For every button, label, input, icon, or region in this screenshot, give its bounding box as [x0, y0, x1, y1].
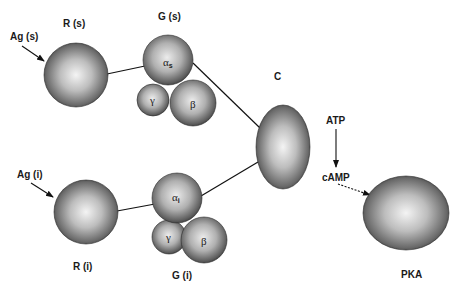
label-r-s: R (s) — [63, 18, 85, 29]
label-g-i: G (i) — [172, 270, 192, 281]
label-c: C — [274, 71, 281, 82]
edge-rs-gs — [107, 66, 145, 74]
gs-gamma-label: γ — [149, 94, 155, 106]
r-i-sphere — [54, 180, 118, 244]
label-r-i: R (i) — [73, 261, 92, 272]
label-ag-s: Ag (s) — [10, 31, 38, 42]
gs-beta-label: β — [190, 98, 196, 110]
gi-gamma-label: γ — [165, 231, 171, 243]
gi-beta-label: β — [201, 235, 207, 247]
label-g-s: G (s) — [158, 11, 181, 22]
r-s-sphere — [44, 43, 108, 107]
arrow-ag-i — [31, 183, 53, 197]
edge-ri-gi — [117, 204, 155, 211]
label-atp: ATP — [326, 115, 346, 126]
arrow-camp-pka — [338, 184, 370, 195]
arrow-ag-s — [22, 46, 44, 61]
edge-gi-c — [201, 162, 258, 196]
pka-ellipsoid — [363, 176, 449, 250]
label-camp: cAMP — [322, 172, 350, 183]
label-ag-i: Ag (i) — [17, 169, 43, 180]
signaling-diagram: αs γ β αi γ β Ag (s) R (s) G (s) C ATP c… — [0, 0, 460, 291]
c-adenylyl-cyclase — [256, 105, 310, 189]
label-pka: PKA — [401, 269, 422, 280]
